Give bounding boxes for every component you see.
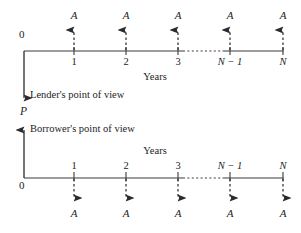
lender-tick-label-2: 2 [123, 57, 128, 68]
lender-years-axis-label: Years [143, 72, 166, 83]
lender-tick-label-1: 1 [71, 57, 76, 68]
lender-tick-label-4: N − 1 [218, 57, 243, 68]
lender-payment-label-1: A [71, 10, 78, 21]
borrower-payment-label-3: A [175, 208, 182, 219]
lender-tick-label-3: 3 [175, 57, 180, 68]
lender-payment-label-3: A [175, 10, 182, 21]
borrower-tick-label-1: 1 [71, 161, 76, 172]
lender-payment-label-2: A [123, 10, 130, 21]
borrower-payment-label-5: A [280, 208, 287, 219]
borrower-payment-label-4: A [227, 208, 234, 219]
cash-flow-diagram [0, 0, 301, 233]
borrower-tick-label-5: N [279, 161, 286, 172]
lender-tick-label-5: N [279, 57, 286, 68]
borrower-diagram [24, 130, 284, 198]
lender-diagram [24, 30, 284, 98]
borrower-tick-label-4: N − 1 [218, 161, 243, 172]
lender-payment-label-4: A [227, 10, 234, 21]
borrower-payment-arrows [74, 179, 283, 198]
lender-zero-label: 0 [19, 29, 25, 40]
lender-point-of-view-label: Lender's point of view [30, 90, 124, 101]
borrower-tick-label-2: 2 [123, 161, 128, 172]
borrower-zero-label: 0 [19, 180, 25, 191]
lender-principal-label: P [20, 106, 27, 118]
lender-payment-label-5: A [280, 10, 287, 21]
borrower-tick-label-3: 3 [175, 161, 180, 172]
borrower-point-of-view-label: Borrower's point of view [30, 124, 135, 135]
borrower-payment-label-1: A [71, 208, 78, 219]
borrower-payment-label-2: A [123, 208, 130, 219]
borrower-years-axis-label: Years [143, 146, 166, 157]
